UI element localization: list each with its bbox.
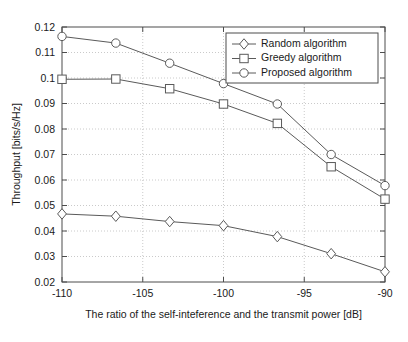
x-axis-label: The ratio of the self-inteference and th… <box>85 308 362 320</box>
data-point <box>58 32 66 40</box>
data-point <box>381 181 389 189</box>
x-tick-label: -105 <box>132 287 153 299</box>
data-point <box>58 209 67 220</box>
y-tick-label: 0.08 <box>35 123 56 135</box>
y-tick-label: 0.03 <box>35 250 56 262</box>
series-1 <box>58 209 390 277</box>
legend-marker-circle-icon <box>240 69 248 77</box>
y-tick-label: 0.05 <box>35 199 56 211</box>
data-point <box>219 100 227 108</box>
y-tick-label: 0.02 <box>35 276 56 288</box>
data-point <box>381 267 390 278</box>
data-point <box>112 75 120 83</box>
y-tick-label: 0.12 <box>35 21 56 33</box>
legend-label: Proposed algorithm <box>261 66 352 78</box>
data-point <box>327 163 335 171</box>
data-point <box>273 100 281 108</box>
y-tick-label: 0.1 <box>40 72 55 84</box>
y-tick-label: 0.07 <box>35 148 56 160</box>
legend-label: Greedy algorithm <box>261 51 342 63</box>
y-tick-label: 0.04 <box>35 225 56 237</box>
x-tick-label: -90 <box>377 287 392 299</box>
data-point <box>165 216 174 227</box>
throughput-line-chart: 0.020.030.040.050.060.070.080.090.10.110… <box>0 0 408 342</box>
data-point <box>327 248 336 259</box>
series-2 <box>58 75 389 204</box>
x-tick-label: -95 <box>297 287 312 299</box>
data-point <box>111 211 120 222</box>
y-axis-label: Throughput [bits/s/Hz] <box>10 103 22 206</box>
y-tick-label: 0.11 <box>35 46 55 58</box>
data-point <box>165 85 173 93</box>
y-tick-label: 0.09 <box>35 97 56 109</box>
data-point <box>273 231 282 242</box>
data-point <box>327 150 335 158</box>
x-tick-label: -110 <box>52 287 72 299</box>
data-point <box>381 195 389 203</box>
legend-marker-square-icon <box>240 54 248 62</box>
data-point <box>219 220 228 231</box>
x-tick-label: -100 <box>213 287 234 299</box>
series-line <box>62 79 385 199</box>
data-point <box>165 59 173 67</box>
data-point <box>273 119 281 127</box>
data-point <box>112 39 120 47</box>
chart-canvas: 0.020.030.040.050.060.070.080.090.10.110… <box>0 0 408 342</box>
legend-label: Random algorithm <box>261 37 347 49</box>
y-tick-label: 0.06 <box>35 174 56 186</box>
data-point <box>58 75 66 83</box>
chart-legend[interactable]: Random algorithmGreedy algorithmProposed… <box>226 33 378 83</box>
